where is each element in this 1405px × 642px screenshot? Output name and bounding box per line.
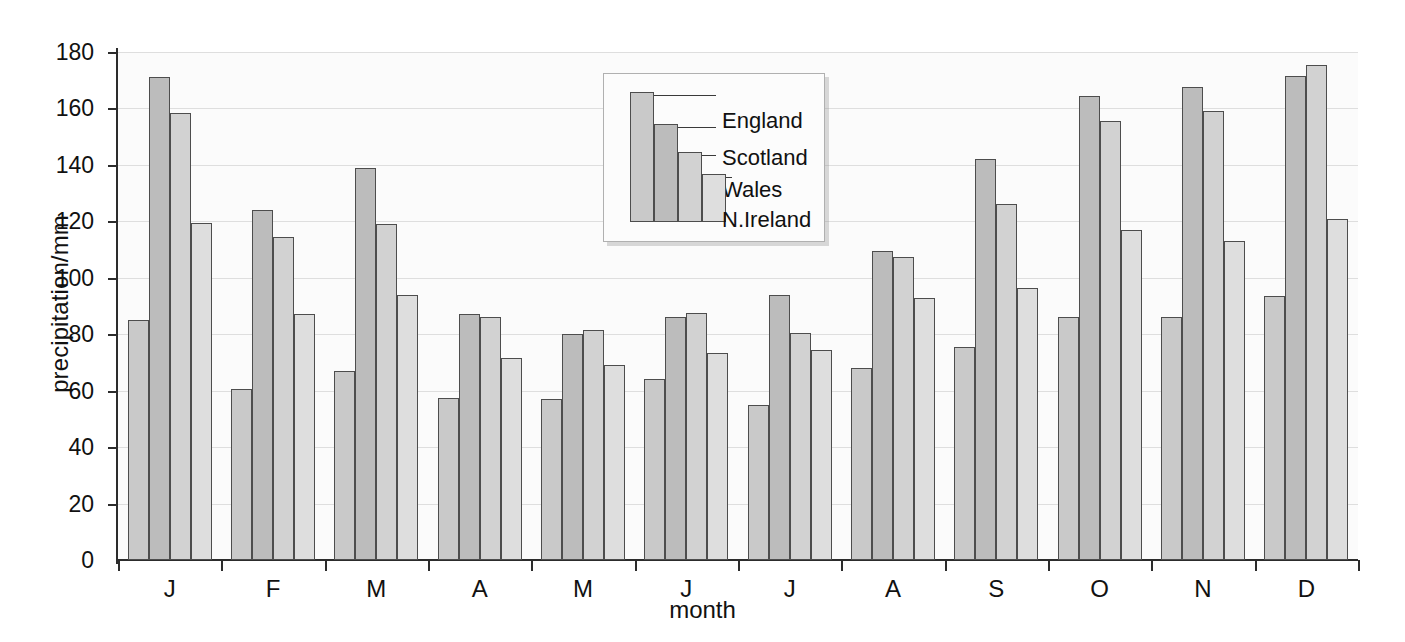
bar-wales-8 [996,204,1017,560]
y-tick-label-140: 140 [14,154,94,177]
legend-leader-line-0 [654,95,716,96]
bar-nireland-9 [1121,230,1142,560]
x-tick-mark-3 [428,560,430,571]
bar-england-3 [438,398,459,560]
bar-nireland-10 [1224,241,1245,560]
y-tick-label-60: 60 [14,380,94,403]
y-tick-mark-140 [108,165,118,167]
y-tick-mark-100 [108,278,118,280]
y-tick-label-180: 180 [14,41,94,64]
bar-wales-3 [480,317,501,560]
y-tick-label-120: 120 [14,210,94,233]
precipitation-bar-chart: precipitation/mm 02040608010012014016018… [0,0,1405,642]
bar-scotland-7 [872,251,893,560]
y-tick-mark-20 [108,504,118,506]
bar-england-1 [231,389,252,560]
chart-legend: EnglandScotlandWalesN.Ireland [603,73,825,242]
bar-england-10 [1161,317,1182,560]
y-tick-mark-40 [108,447,118,449]
bar-wales-10 [1203,111,1224,560]
bar-scotland-3 [459,314,480,560]
x-tick-mark-6 [738,560,740,571]
bar-nireland-6 [811,350,832,560]
y-tick-mark-180 [108,52,118,54]
bar-scotland-8 [975,159,996,560]
legend-leader-line-1 [678,127,716,128]
legend-swatch-scotland [654,124,678,222]
bar-scotland-11 [1285,76,1306,560]
bar-england-2 [334,371,355,560]
x-tick-mark-11 [1255,560,1257,571]
bar-england-0 [128,320,149,560]
bar-wales-6 [790,333,811,560]
legend-label-nireland: N.Ireland [722,209,811,231]
bar-scotland-5 [665,317,686,560]
bar-scotland-1 [252,210,273,560]
bar-nireland-7 [914,298,935,560]
y-tick-mark-120 [108,221,118,223]
y-axis-line [116,48,118,564]
bar-england-9 [1058,317,1079,560]
gridline-180 [118,52,1358,53]
bar-scotland-4 [562,334,583,560]
bar-scotland-2 [355,168,376,560]
bar-nireland-5 [707,353,728,560]
bar-england-6 [748,405,769,560]
y-tick-label-160: 160 [14,97,94,120]
legend-label-scotland: Scotland [722,147,808,169]
bar-wales-7 [893,257,914,560]
x-tick-mark-7 [841,560,843,571]
bar-wales-0 [170,113,191,560]
x-tick-mark-0 [118,560,120,571]
bar-england-8 [954,347,975,560]
y-tick-mark-60 [108,391,118,393]
x-tick-mark-1 [221,560,223,571]
bar-wales-5 [686,313,707,560]
bar-nireland-8 [1017,288,1038,560]
bar-nireland-4 [604,365,625,560]
x-tick-mark-8 [945,560,947,571]
bar-england-5 [644,379,665,560]
bar-wales-9 [1100,121,1121,560]
bar-scotland-0 [149,77,170,560]
legend-label-wales: Wales [722,179,782,201]
bar-england-4 [541,399,562,560]
legend-swatch-wales [678,152,702,222]
x-tick-mark-end [1358,560,1360,571]
bar-scotland-9 [1079,96,1100,560]
bar-wales-2 [376,224,397,560]
bar-nireland-11 [1327,219,1348,560]
bar-nireland-1 [294,314,315,560]
bar-england-11 [1264,296,1285,560]
legend-label-england: England [722,110,803,132]
legend-leader-line-3 [726,177,732,178]
x-tick-mark-9 [1048,560,1050,571]
x-tick-mark-4 [531,560,533,571]
bar-wales-11 [1306,65,1327,560]
legend-swatch-england [630,92,654,222]
bar-scotland-10 [1182,87,1203,560]
gridline-100 [118,278,1358,279]
bar-scotland-6 [769,295,790,560]
bar-nireland-3 [501,358,522,560]
x-tick-mark-5 [635,560,637,571]
y-tick-mark-80 [108,334,118,336]
y-tick-label-20: 20 [14,493,94,516]
legend-leader-line-2 [702,155,716,156]
x-axis-title: month [0,596,1405,624]
y-tick-mark-160 [108,108,118,110]
bar-nireland-2 [397,295,418,560]
y-tick-label-80: 80 [14,323,94,346]
bar-wales-1 [273,237,294,560]
bar-wales-4 [583,330,604,560]
bar-nireland-0 [191,223,212,560]
y-tick-label-0: 0 [14,549,94,572]
y-tick-label-40: 40 [14,436,94,459]
y-tick-label-100: 100 [14,267,94,290]
x-tick-mark-10 [1151,560,1153,571]
bar-england-7 [851,368,872,560]
x-tick-mark-2 [325,560,327,571]
